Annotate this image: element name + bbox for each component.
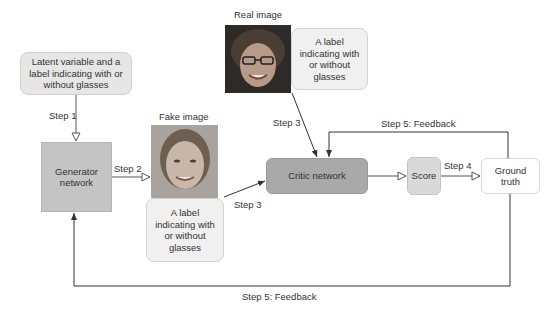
fake-label-text: A label indicating with or without glass… (150, 207, 220, 253)
step3-fake-label: Step 3 (234, 199, 261, 210)
fake-label-node: A label indicating with or without glass… (146, 198, 224, 262)
face-icon (225, 25, 291, 93)
real-image-caption: Real image (234, 9, 282, 20)
step2-label: Step 2 (114, 163, 141, 174)
real-face-image (225, 25, 291, 93)
latent-input-label: Latent variable and a label indicating w… (25, 56, 127, 91)
step5-bottom-label: Step 5: Feedback (242, 291, 316, 302)
face-icon (151, 125, 218, 198)
generator-network-node: Generator network (41, 142, 112, 212)
step5-top-label: Step 5: Feedback (381, 118, 455, 129)
latent-input-node: Latent variable and a label indicating w… (20, 52, 132, 95)
score-label: Score (412, 170, 437, 182)
fake-face-image (151, 125, 218, 198)
critic-network-label: Critic network (288, 170, 346, 182)
generator-network-label: Generator network (52, 166, 102, 189)
step1-label: Step 1 (49, 110, 76, 121)
score-node: Score (407, 157, 441, 195)
real-label-node: A label indicating with or without glass… (291, 28, 368, 90)
real-label-text: A label indicating with or without glass… (295, 36, 364, 82)
step3-real-label: Step 3 (273, 117, 300, 128)
ground-truth-label: Ground truth (491, 165, 531, 188)
step4-label: Step 4 (444, 160, 471, 171)
critic-network-node: Critic network (266, 158, 368, 194)
fake-image-caption: Fake image (159, 111, 209, 122)
ground-truth-node: Ground truth (481, 158, 540, 194)
